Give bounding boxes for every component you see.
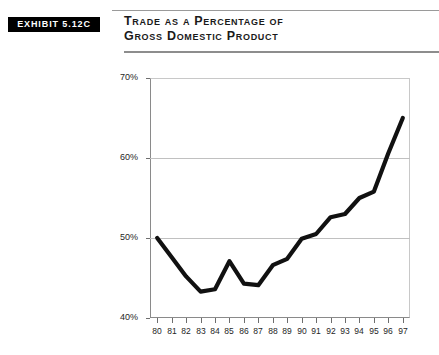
data-line-layer xyxy=(0,62,439,355)
data-series-line xyxy=(157,118,403,292)
header-top-rule xyxy=(111,10,439,11)
page-title-line-2: Gross Domestic Product xyxy=(124,29,424,44)
line-chart: 40%50%60%70% 808182838485868788899091929… xyxy=(0,62,439,355)
exhibit-number-badge: EXHIBIT 5.12C xyxy=(8,17,100,32)
page-title-line-1: Trade as a Percentage of xyxy=(124,14,424,29)
header-badge-gap xyxy=(111,10,112,54)
page-title: Trade as a Percentage of Gross Domestic … xyxy=(124,14,424,44)
header-bottom-rule xyxy=(124,51,439,53)
exhibit-header: EXHIBIT 5.12C Trade as a Percentage of G… xyxy=(0,0,439,62)
